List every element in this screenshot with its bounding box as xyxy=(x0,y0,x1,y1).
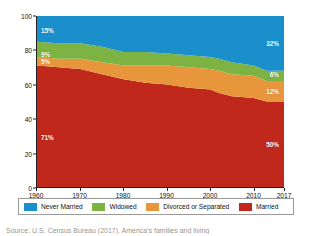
value-label-never-married-end: 32% xyxy=(266,40,279,47)
legend-label: Married xyxy=(256,203,278,210)
value-label-married-end: 50% xyxy=(266,141,279,148)
legend-item[interactable]: Married xyxy=(239,203,288,211)
x-axis-tick-mark xyxy=(284,188,285,191)
x-axis-tick-mark xyxy=(254,188,255,191)
plot-wrapper: Percent of Population 020406080100 19601… xyxy=(36,16,284,188)
value-label-widowed-end: 6% xyxy=(270,71,279,78)
legend-swatch-icon xyxy=(146,203,159,211)
plot-area: 15% 9% 5% 71% 32% 6% 12% 50% xyxy=(36,16,284,188)
x-axis-tick-mark xyxy=(80,188,81,191)
legend-label: Never Married xyxy=(41,203,83,210)
legend-swatch-icon xyxy=(239,203,252,211)
legend-swatch-icon xyxy=(24,203,37,211)
legend-item[interactable]: Never Married xyxy=(24,203,92,211)
legend-label: Widowed xyxy=(109,203,136,210)
value-label-divorced-start: 5% xyxy=(41,58,50,65)
stacked-area-series-svg xyxy=(37,16,284,187)
chart-legend: Never MarriedWidowedDivorced or Separate… xyxy=(18,198,294,215)
legend-item[interactable]: Widowed xyxy=(92,203,146,211)
value-label-never-married-start: 15% xyxy=(41,26,54,33)
stacked-area-chart-figure: Percent of Population 020406080100 19601… xyxy=(0,0,312,236)
x-axis-tick-mark xyxy=(167,188,168,191)
legend-swatch-icon xyxy=(92,203,105,211)
legend-label: Divorced or Separated xyxy=(163,203,229,210)
source-caption: Source: U.S. Census Bureau (2017). Ameri… xyxy=(6,227,306,234)
x-axis-tick-mark xyxy=(123,188,124,191)
value-label-divorced-end: 12% xyxy=(266,88,279,95)
value-label-married-start: 71% xyxy=(41,134,54,141)
x-axis-tick-mark xyxy=(210,188,211,191)
x-axis-tick-mark xyxy=(36,188,37,191)
legend-item[interactable]: Divorced or Separated xyxy=(146,203,239,211)
